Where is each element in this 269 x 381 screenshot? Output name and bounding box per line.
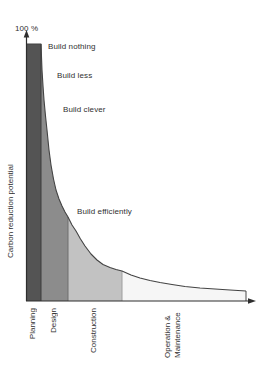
chart-plot-area — [0, 0, 269, 381]
annotation-build-efficiently: Build efficiently — [77, 207, 132, 216]
x-axis-arrow-icon — [248, 298, 256, 304]
carbon-reduction-chart: 100 % Carbon reduction potential Build n… — [0, 0, 269, 381]
area-segment-design — [41, 44, 68, 301]
annotation-build-clever: Build clever — [63, 105, 106, 114]
annotation-build-nothing: Build nothing — [48, 42, 96, 51]
y-axis-max-label: 100 % — [15, 24, 38, 33]
x-axis-label-operation-maintenance: Operation & Maintenance — [163, 308, 183, 358]
x-axis-label-construction: Construction — [89, 308, 99, 353]
y-axis-title: Carbon reduction potential — [6, 146, 16, 276]
x-axis-label-planning: Planning — [28, 308, 38, 339]
area-segment-planning — [26, 44, 41, 301]
area-segment-construction — [68, 217, 122, 301]
x-axis-label-design: Design — [49, 308, 59, 333]
annotation-build-less: Build less — [57, 71, 92, 80]
